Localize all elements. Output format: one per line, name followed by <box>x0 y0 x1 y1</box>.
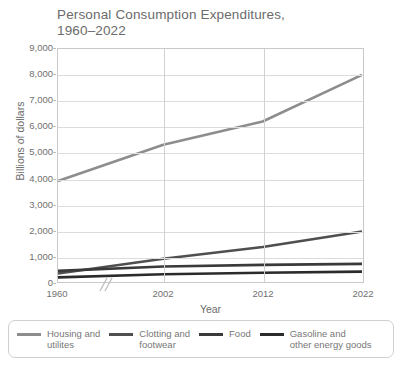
legend-swatch-icon <box>199 333 223 336</box>
gridline-vertical <box>264 49 265 282</box>
legend-swatch-icon <box>109 333 133 336</box>
legend-items: Housing and utilitesClotting and footwea… <box>9 321 393 357</box>
x-tick-label: 2012 <box>238 288 288 299</box>
y-tick-label: 0 <box>7 278 53 288</box>
gridline-horizontal <box>58 180 363 181</box>
plot-area <box>57 48 364 283</box>
legend-label: Housing and utilites <box>47 328 100 350</box>
legend-item-3[interactable]: Gasoline and other energy goods <box>260 328 372 350</box>
gridline-horizontal <box>58 206 363 207</box>
x-tick-label: 2022 <box>338 288 388 299</box>
y-tick-mark <box>52 100 56 101</box>
y-axis-ticks: 01,0002,0003,0004,0005,0006,0007,0008,00… <box>0 0 53 369</box>
y-tick-mark <box>52 74 56 75</box>
y-tick-mark <box>52 257 56 258</box>
series-lines <box>58 49 363 282</box>
chart-title: Personal Consumption Expenditures, 1960–… <box>57 7 387 39</box>
legend-item-2[interactable]: Food <box>199 328 251 339</box>
series-line-1 <box>58 232 362 274</box>
x-tick-label: 1960 <box>32 288 82 299</box>
y-tick-mark <box>52 179 56 180</box>
y-tick-mark <box>52 283 56 284</box>
legend-item-1[interactable]: Clotting and footwear <box>109 328 190 350</box>
x-tick-label: 2002 <box>138 288 188 299</box>
gridline-horizontal <box>58 232 363 233</box>
legend-label: Gasoline and other energy goods <box>290 328 372 350</box>
gridline-horizontal <box>58 153 363 154</box>
chart-root: Personal Consumption Expenditures, 1960–… <box>0 0 404 369</box>
gridline-horizontal <box>58 101 363 102</box>
y-tick-label: 1,000 <box>7 252 53 262</box>
legend-label: Clotting and footwear <box>139 328 190 350</box>
y-axis-title: Billions of dollars <box>14 51 26 231</box>
legend-label: Food <box>229 328 251 339</box>
legend-swatch-icon <box>17 333 41 336</box>
gridline-horizontal <box>58 127 363 128</box>
legend: Housing and utilitesClotting and footwea… <box>8 320 394 358</box>
y-tick-mark <box>52 231 56 232</box>
y-tick-mark <box>52 126 56 127</box>
y-tick-mark <box>52 48 56 49</box>
axis-break-icon <box>96 277 116 293</box>
legend-swatch-icon <box>260 333 284 336</box>
gridline-horizontal <box>58 258 363 259</box>
y-tick-mark <box>52 152 56 153</box>
legend-item-0[interactable]: Housing and utilites <box>17 328 100 350</box>
x-axis-title: Year <box>57 303 364 315</box>
y-tick-mark <box>52 205 56 206</box>
gridline-vertical <box>164 49 165 282</box>
gridline-horizontal <box>58 75 363 76</box>
